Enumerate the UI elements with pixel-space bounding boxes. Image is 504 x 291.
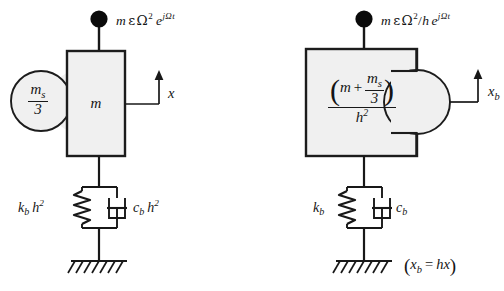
- left-ground-hatching-icon: [68, 261, 123, 273]
- left-spring-subscript: b: [24, 206, 29, 217]
- right-block-inner-numerator-subscript: s: [378, 77, 382, 89]
- note-equals-operator: =: [425, 256, 433, 272]
- right-spring-label: kb: [313, 199, 324, 218]
- right-spring-subscript: b: [319, 206, 324, 217]
- left-coordinate-arrowhead-icon: [155, 70, 164, 80]
- right-block-outer-fraction: (m+ ms 3 ) h2: [328, 71, 396, 126]
- right-block-paren-open: (: [330, 73, 340, 106]
- right-block-paren-close: ): [384, 73, 394, 106]
- left-lobe-denominator: 3: [28, 101, 47, 118]
- right-force-omega: Ω: [402, 12, 414, 28]
- right-spring-coil-icon: [339, 191, 355, 224]
- note-lhs-subscript: b: [417, 264, 422, 275]
- left-lobe-expression: ms 3: [15, 82, 61, 118]
- right-coordinate-arrowhead-icon: [474, 69, 483, 79]
- left-spring-label: kbh2: [18, 199, 44, 218]
- left-excitation-force-label: mεΩ2ejΩt: [116, 12, 175, 27]
- left-lobe-numerator-symbol: m: [30, 81, 41, 97]
- left-damper-factor-exponent: 2: [154, 198, 159, 208]
- left-force-omega-exponent: 2: [148, 11, 153, 21]
- right-block-inner-denominator: 3: [365, 90, 384, 107]
- left-force-exp-argument: jΩt: [162, 11, 175, 21]
- schematic-canvas: [0, 0, 504, 291]
- note-paren-close: ): [450, 255, 456, 276]
- left-coordinate-symbol: x: [168, 85, 174, 101]
- right-panel-geometry: [306, 10, 482, 273]
- left-panel-geometry: [11, 10, 163, 273]
- note-rhs-expression: hx: [436, 256, 450, 272]
- right-excitation-force-label: mεΩ2/hejΩt: [381, 12, 451, 27]
- left-coordinate-label: x: [168, 86, 174, 104]
- right-block-inner-numerator-symbol: m: [367, 70, 378, 86]
- right-force-divisor: h: [422, 13, 429, 28]
- right-coordinate-subscript: b: [494, 91, 499, 102]
- left-damper-subscript: b: [139, 206, 144, 217]
- left-lobe-fraction: ms 3: [28, 82, 47, 118]
- right-coordinate-relation-note: (xb=hx): [404, 256, 456, 275]
- right-damper-label: cb: [396, 199, 407, 218]
- right-ground-hatching-icon: [333, 261, 388, 273]
- right-block-outer-numerator: (m+ ms 3 ): [328, 71, 396, 107]
- right-block-expression: (m+ ms 3 ) h2: [312, 71, 412, 126]
- right-block-outer-denominator-exponent: 2: [363, 107, 368, 118]
- right-block-plus-operator: +: [353, 79, 363, 95]
- left-damper-label: cbh2: [133, 199, 159, 218]
- left-lobe-numerator-subscript: s: [41, 88, 45, 100]
- left-lobe-numerator: ms: [28, 82, 47, 100]
- right-coordinate-label: xb: [488, 84, 500, 102]
- left-force-mass: m: [116, 13, 126, 28]
- right-block-outer-denominator: h2: [328, 107, 396, 126]
- left-excitation-node-icon: [90, 10, 107, 27]
- right-damper-subscript: b: [402, 206, 407, 217]
- left-block-mass-label: m: [82, 96, 110, 111]
- right-excitation-node-icon: [355, 10, 372, 27]
- left-spring-coil-icon: [74, 191, 90, 224]
- right-force-epsilon: ε: [393, 12, 400, 28]
- left-spring-factor-exponent: 2: [39, 198, 44, 208]
- right-block-inner-fraction: ms 3: [365, 71, 384, 107]
- right-force-mass: m: [381, 13, 391, 28]
- right-block-mass-symbol: m: [340, 79, 351, 95]
- left-force-epsilon: ε: [128, 12, 135, 28]
- right-force-exp-argument: jΩt: [438, 11, 451, 21]
- right-block-inner-numerator: ms: [365, 71, 384, 89]
- left-force-omega: Ω: [137, 12, 149, 28]
